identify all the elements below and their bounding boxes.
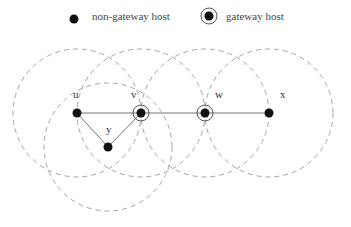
node-y: [104, 143, 113, 152]
node-v: [137, 109, 146, 118]
label-u: u: [73, 88, 79, 100]
network-diagram: non-gateway host gateway host u v y w x: [0, 0, 351, 227]
node-u: [73, 109, 82, 118]
legend-gateway-label: gateway host: [226, 10, 284, 22]
node-x: [265, 109, 274, 118]
edge-y-v: [108, 113, 141, 147]
label-w: w: [215, 88, 223, 100]
legend-non-gateway-label: non-gateway host: [92, 10, 170, 22]
node-w: [201, 109, 210, 118]
label-v: v: [131, 88, 137, 100]
label-y: y: [106, 123, 112, 135]
edge-u-y: [77, 113, 108, 147]
range-circles: [13, 49, 333, 211]
legend-gateway-dot-icon: [205, 12, 214, 21]
label-x: x: [280, 88, 286, 100]
legend-non-gateway-icon: [70, 15, 79, 24]
